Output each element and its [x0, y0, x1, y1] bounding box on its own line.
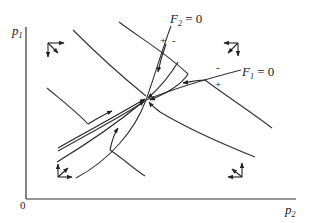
trajectory-upper-left	[73, 30, 146, 96]
path-on-f2	[158, 44, 166, 72]
path-bump-left	[88, 111, 112, 124]
origin-label: 0	[20, 199, 26, 211]
phase-diagram: p1 p2 0	[0, 0, 313, 223]
trajectory-left	[47, 88, 88, 124]
f1-plus-sign: +	[215, 78, 221, 90]
f1-minus-sign: -	[216, 61, 220, 73]
f2-label: F2 = 0	[169, 11, 202, 28]
trajectory-bottom	[110, 150, 145, 176]
converging-paths	[57, 44, 205, 162]
direction-arrows-top-right	[224, 43, 238, 56]
trajectory-right-lower	[160, 112, 255, 157]
direction-arrows-top-left	[48, 43, 64, 57]
y-axis-label: p1	[11, 23, 23, 40]
trajectory-top	[119, 22, 188, 74]
direction-arrows-bottom-right	[228, 163, 242, 177]
direction-arrows-bottom-left	[58, 164, 72, 177]
path-bump-right	[183, 80, 205, 83]
x-axis-label: p2	[284, 202, 296, 219]
f2-minus-sign: -	[172, 34, 176, 46]
f1-label: F1 = 0	[241, 64, 274, 81]
f2-plus-sign: +	[160, 34, 166, 46]
path-from-lower-right	[149, 102, 160, 112]
path-from-left	[58, 99, 145, 148]
